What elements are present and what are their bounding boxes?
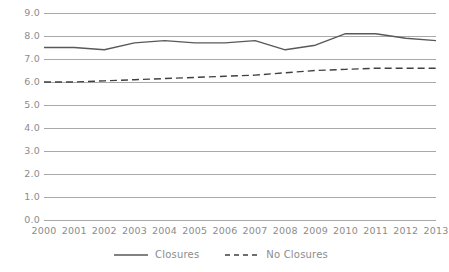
legend-item-no-closures[interactable]: No Closures xyxy=(225,250,328,260)
y-axis-tick-label: 8.0 xyxy=(0,31,40,41)
series-line-closures xyxy=(44,34,436,50)
y-axis-tick-label: 9.0 xyxy=(0,8,40,18)
x-axis-tick-label: 2002 xyxy=(92,226,117,236)
y-axis-tick-label: 6.0 xyxy=(0,77,40,87)
x-axis-tick-label: 2013 xyxy=(424,226,449,236)
x-axis-tick-label: 2006 xyxy=(212,226,237,236)
legend-label: No Closures xyxy=(266,250,328,260)
legend-label: Closures xyxy=(155,250,199,260)
x-axis-tick-label: 2011 xyxy=(363,226,388,236)
legend-swatch-solid xyxy=(114,251,148,259)
y-axis-tick-label: 4.0 xyxy=(0,123,40,133)
y-axis-tick-label: 2.0 xyxy=(0,169,40,179)
x-axis-tick-label: 2004 xyxy=(152,226,177,236)
x-axis-tick-label: 2003 xyxy=(122,226,147,236)
y-axis-tick-label: 5.0 xyxy=(0,100,40,110)
x-axis-tick-label: 2008 xyxy=(273,226,298,236)
y-axis-tick-label: 3.0 xyxy=(0,146,40,156)
legend-item-closures[interactable]: Closures xyxy=(114,250,199,260)
x-axis-tick-label: 2000 xyxy=(32,226,57,236)
series-layer xyxy=(44,13,436,220)
y-axis-labels: 9.08.07.06.05.04.03.02.01.00.0 xyxy=(0,13,40,220)
x-axis-tick-label: 2005 xyxy=(182,226,207,236)
y-axis-tick-label: 0.0 xyxy=(0,215,40,225)
x-axis-labels: 2000200120022003200420052006200720082009… xyxy=(44,226,436,240)
y-axis-tick-label: 1.0 xyxy=(0,192,40,202)
chart-legend: ClosuresNo Closures xyxy=(0,250,442,260)
x-axis-tick-label: 2001 xyxy=(62,226,87,236)
x-axis-tick-label: 2010 xyxy=(333,226,358,236)
legend-swatch-dashed xyxy=(225,251,259,259)
x-axis-tick-label: 2009 xyxy=(303,226,328,236)
series-line-no-closures xyxy=(44,68,436,82)
plot-area xyxy=(44,13,436,220)
x-axis-tick-label: 2012 xyxy=(393,226,418,236)
x-axis-tick-label: 2007 xyxy=(243,226,268,236)
gridline xyxy=(44,220,436,221)
y-axis-tick-label: 7.0 xyxy=(0,54,40,64)
